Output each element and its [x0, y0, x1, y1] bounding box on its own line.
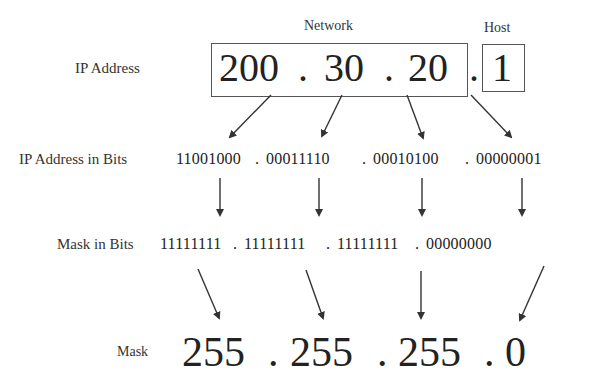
arrow-ip-to-bits-3 — [407, 95, 423, 138]
arrow-ip-to-bits-1 — [230, 95, 271, 137]
arrow-maskbits-to-mask-2 — [306, 270, 323, 318]
arrow-ip-to-bits-4 — [471, 95, 511, 137]
arrow-maskbits-to-mask-4 — [520, 266, 544, 320]
arrows-layer — [0, 0, 589, 391]
arrow-maskbits-to-mask-1 — [198, 269, 219, 318]
arrow-ip-to-bits-2 — [322, 95, 342, 136]
